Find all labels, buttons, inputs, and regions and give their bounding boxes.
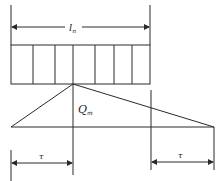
left-tau-dimension: τ (12, 152, 72, 163)
load-diagram: ln Qm τ τ (0, 0, 217, 181)
left-tau-label: τ (39, 152, 44, 161)
triangular-distribution (11, 84, 214, 127)
span-dimension: ln (12, 22, 149, 34)
right-tau-label: τ (178, 151, 183, 160)
segmented-beam (11, 45, 150, 84)
right-tau-dimension: τ (152, 151, 213, 162)
rising-edge (11, 84, 73, 127)
span-label: ln (69, 22, 76, 34)
peak-label: Qm (78, 103, 93, 116)
falling-edge (73, 84, 214, 127)
